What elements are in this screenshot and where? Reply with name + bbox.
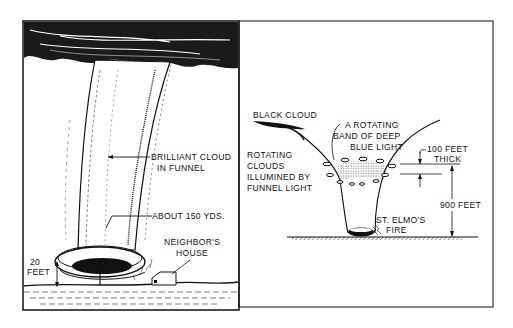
label-20: 20 [30, 257, 40, 267]
tornado-base [55, 246, 145, 285]
annotation-blue-band: A ROTATING BAND OF DEEP BLUE LIGHT [332, 120, 404, 160]
annotation-neighbor: NEIGHBOR'S HOUSE [164, 237, 220, 274]
label-neighbors: NEIGHBOR'S [164, 237, 220, 247]
label-illumined-by: ILLUMINED BY [247, 172, 310, 182]
right-panel: BLACK CLOUD A ROTATING [239, 21, 493, 307]
label-thick: THICK [434, 154, 461, 164]
label-about-150-yds: ABOUT 150 YDS. [152, 211, 225, 221]
label-black-cloud: BLACK CLOUD [253, 110, 317, 120]
label-in-funnel: IN FUNNEL [157, 163, 205, 173]
left-panel: BRILLIANT CLOUD IN FUNNEL ABOUT 150 YDS.… [23, 21, 239, 310]
black-cloud: BLACK CLOUD [253, 110, 317, 140]
label-a-rotating: A ROTATING [345, 120, 399, 130]
label-fire: FIRE [386, 225, 407, 235]
ground-line [287, 237, 478, 240]
dimension-100-feet: 100 FEET THICK [400, 144, 469, 187]
dimension-900-feet: 900 FEET [437, 165, 482, 237]
ground [24, 282, 238, 304]
label-funnel-light: FUNNEL LIGHT [247, 183, 313, 193]
label-blue-light: BLUE LIGHT [350, 142, 404, 152]
label-brilliant-cloud: BRILLIANT CLOUD [151, 152, 231, 162]
annotation-st-elmos-fire: ST. ELMO'S FIRE [373, 215, 426, 235]
label-st-elmos: ST. ELMO'S [376, 215, 426, 225]
annotation-20-feet: 20 FEET [27, 257, 59, 287]
annotation-rotating-clouds: ROTATING CLOUDS ILLUMINED BY FUNNEL LIGH… [247, 150, 313, 193]
label-house: HOUSE [176, 248, 208, 258]
label-band-of-deep: BAND OF DEEP [333, 131, 401, 141]
label-900-feet: 900 FEET [440, 200, 482, 210]
label-rotating: ROTATING [247, 150, 293, 160]
label-100-feet: 100 FEET [427, 144, 469, 154]
label-clouds: CLOUDS [247, 161, 285, 171]
tornado-diagram: BRILLIANT CLOUD IN FUNNEL ABOUT 150 YDS.… [0, 0, 513, 328]
label-feet: FEET [27, 267, 51, 277]
